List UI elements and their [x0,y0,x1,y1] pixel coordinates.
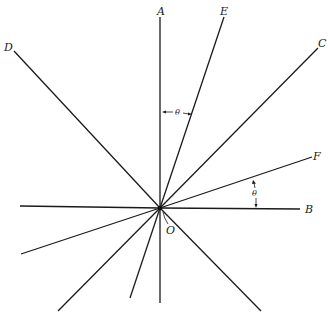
label-d: D [3,41,13,54]
label-f: F [312,150,321,163]
label-o: O [166,224,175,237]
rotation-diagram: θ θ A E C D F B O [0,0,332,320]
ray-ob [160,208,300,209]
ray-of-opposite [21,208,160,254]
ray-oc-opposite [58,208,160,311]
label-a: A [156,5,165,18]
ray-od-opposite [160,208,261,311]
ray-od [14,51,160,208]
ray-ob-opposite [20,206,160,208]
angle-marker-fb: θ [252,180,258,208]
angle-marker-ae: θ [162,108,192,117]
theta-label-ae: θ [175,108,180,117]
ray-oe [160,17,224,208]
label-e: E [219,5,228,18]
label-c: C [318,37,327,50]
origin-point [158,206,162,210]
ray-oc [160,48,318,208]
theta-label-fb: θ [252,189,257,198]
rays [14,17,318,311]
label-b: B [304,203,313,216]
ray-of [160,157,312,208]
ray-oe-opposite [130,208,160,298]
